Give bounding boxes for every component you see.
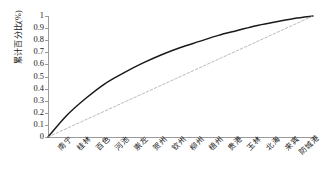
reference-line xyxy=(48,16,313,137)
chart-series-svg xyxy=(48,16,313,137)
y-tick-label: 0.7 xyxy=(34,48,44,56)
y-tick-label: 0.1 xyxy=(34,121,44,129)
y-tick-label: 0.6 xyxy=(34,60,44,68)
x-axis-labels: 南宁桂林百色河池崇左贺州钦州柳州梧州贵港玉林北海来宾防城港 xyxy=(48,137,313,176)
y-tick-label: 0.4 xyxy=(34,84,44,92)
plot-area: 00.10.20.30.40.50.60.70.80.91 xyxy=(48,16,313,137)
y-tick-label: 0 xyxy=(40,133,44,141)
y-tick-label: 0.9 xyxy=(34,24,44,32)
x-tick-label-text: 南宁 xyxy=(57,135,74,152)
y-tick-label: 1 xyxy=(40,12,44,20)
y-tick-label: 0.3 xyxy=(34,96,44,104)
y-tick-label: 0.2 xyxy=(34,109,44,117)
y-axis-title: 累计百分比(%) xyxy=(11,0,25,85)
y-tick-label: 0.5 xyxy=(34,72,44,80)
cumulative-percentage-chart: 累计百分比(%) 00.10.20.30.40.50.60.70.80.91 南… xyxy=(0,0,330,176)
y-tick-label: 0.8 xyxy=(34,36,44,44)
x-tick-label: 防城港 xyxy=(313,122,330,145)
